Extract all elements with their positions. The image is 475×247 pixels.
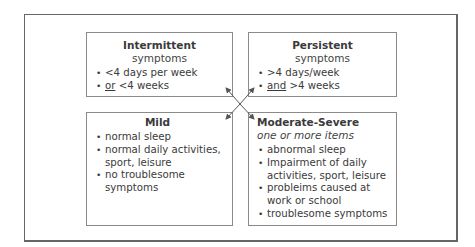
cross-arrows-icon [0,0,475,247]
